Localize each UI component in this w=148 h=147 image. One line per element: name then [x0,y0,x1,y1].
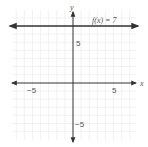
x-tick-label-5: 5 [112,86,117,95]
y-tick-label-5: 5 [76,39,81,48]
x-tick-label-neg5: −5 [27,86,37,95]
y-axis-label: y [69,3,74,12]
function-label: f(x) = 7 [92,16,118,25]
y-tick-label-neg5: −5 [75,120,85,129]
grid [12,10,136,140]
x-axis-label: x [139,79,144,88]
coordinate-plane: y x f(x) = 7 5 −5 −5 5 [0,0,148,147]
